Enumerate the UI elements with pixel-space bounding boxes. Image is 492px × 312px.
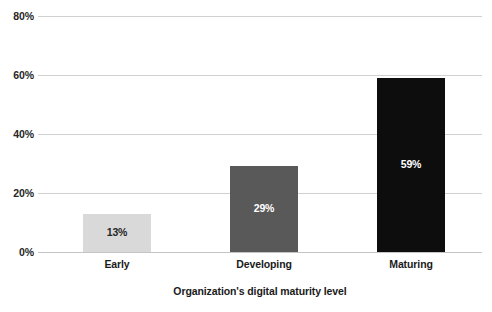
y-tick-label-0pct: 0% [0, 246, 34, 258]
gridline-60pct [38, 75, 482, 76]
bar-value-label-early: 13% [83, 226, 151, 238]
bar-value-label-developing: 29% [230, 202, 298, 214]
gridline-0pct [38, 252, 482, 253]
gridline-80pct [38, 16, 482, 17]
plot-area: 13%29%59% [38, 16, 482, 252]
category-label-developing: Developing [204, 258, 324, 270]
bar-chart: 0%20%40%60%80% 13%29%59% EarlyDeveloping… [0, 0, 492, 312]
y-axis-tick-labels: 0%20%40%60%80% [0, 0, 34, 312]
category-label-early: Early [57, 258, 177, 270]
category-label-maturing: Maturing [351, 258, 471, 270]
bar-early[interactable]: 13% [83, 214, 151, 252]
y-tick-label-20pct: 20% [0, 187, 34, 199]
bar-maturing[interactable]: 59% [377, 78, 445, 252]
x-axis-title: Organization's digital maturity level [38, 285, 482, 297]
bar-value-label-maturing: 59% [377, 158, 445, 170]
y-tick-label-60pct: 60% [0, 69, 34, 81]
y-tick-label-40pct: 40% [0, 128, 34, 140]
bar-developing[interactable]: 29% [230, 166, 298, 252]
y-tick-label-80pct: 80% [0, 10, 34, 22]
